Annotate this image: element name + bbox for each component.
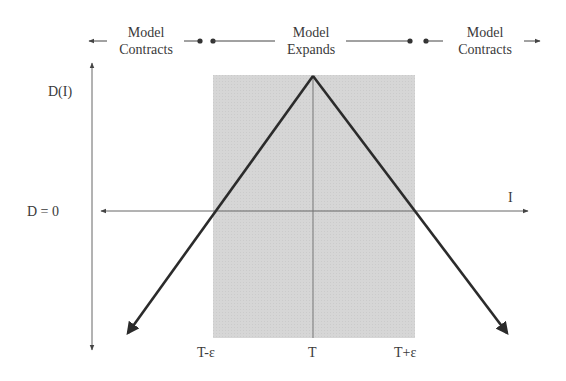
boundary-dot-1	[197, 38, 202, 43]
header-center-line2: Expands	[266, 41, 356, 58]
x-axis-label: I	[508, 189, 513, 206]
shaded-region	[213, 75, 415, 338]
header-left-line1: Model	[101, 24, 191, 41]
tick-right-label: T+ε	[394, 344, 416, 361]
header-right-label: Model Contracts	[440, 24, 530, 58]
y-axis-label: D(I)	[48, 83, 72, 100]
zero-label: D = 0	[27, 203, 59, 220]
header-left-line2: Contracts	[101, 41, 191, 58]
tick-left-label: T-ε	[197, 344, 215, 361]
header-right-line2: Contracts	[440, 41, 530, 58]
header-right-line1: Model	[440, 24, 530, 41]
boundary-dot-3	[407, 38, 412, 43]
header-left-label: Model Contracts	[101, 24, 191, 58]
tick-center-label: T	[308, 344, 317, 361]
header-center-label: Model Expands	[266, 24, 356, 58]
header-center-line1: Model	[266, 24, 356, 41]
